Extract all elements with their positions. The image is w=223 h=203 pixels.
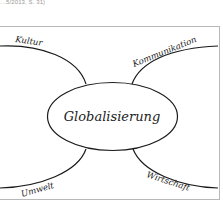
branch-label-wirtschaft: Wirtschaft: [145, 169, 191, 193]
center-label: Globalisierung: [64, 109, 161, 124]
branch-label-kommunikation: Kommunikation: [130, 34, 198, 69]
mindmap-diagram: Globalisierung Kultur Kommunikation Umwe…: [0, 0, 223, 203]
branch-line-kultur: [0, 46, 86, 84]
